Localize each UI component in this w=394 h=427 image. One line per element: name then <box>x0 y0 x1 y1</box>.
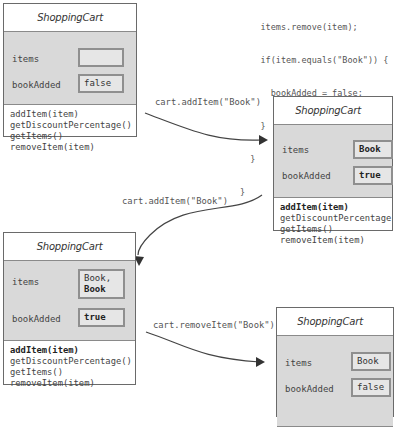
attribute-value: false <box>351 378 391 397</box>
transition-label: cart.addItem("Book") <box>122 196 228 206</box>
methods-section: addItem(item) getDiscountPercentage() ge… <box>4 105 136 157</box>
shopping-cart-state-1: ShoppingCart items bookAdded false addIt… <box>3 3 137 137</box>
attribute-name: bookAdded <box>285 384 334 394</box>
class-title: ShoppingCart <box>277 308 393 336</box>
method: removeItem(item) <box>10 142 130 153</box>
attribute-value: Book <box>353 140 393 159</box>
item-value: Book, <box>84 273 119 284</box>
attribute-name: items <box>282 145 309 155</box>
method: removeItem(item) <box>10 378 129 389</box>
attributes-section: items bookAdded false <box>4 32 136 105</box>
transition-label: cart.addItem("Book") <box>155 97 261 107</box>
class-title: ShoppingCart <box>4 4 136 32</box>
attribute-name: items <box>12 277 39 287</box>
shopping-cart-state-2: ShoppingCart items Book bookAdded true a… <box>273 96 393 231</box>
methods-section: addItem(item) getDiscountPercentage() ge… <box>4 341 135 393</box>
attribute-name: items <box>12 54 39 64</box>
attribute-value: true <box>78 308 125 327</box>
attributes-section: items Book bookAdded true <box>274 125 392 198</box>
attribute-value: Book <box>351 352 391 371</box>
method: getDiscountPercentage() <box>10 120 130 131</box>
attribute-name: bookAdded <box>12 80 61 90</box>
method: addItem(item) <box>10 345 129 356</box>
method: removeItem(item) <box>280 235 386 246</box>
shopping-cart-state-4: ShoppingCart items Book bookAdded false <box>276 307 394 417</box>
attribute-value: Book, Book <box>78 269 125 299</box>
attribute-value <box>78 48 124 67</box>
attribute-name: items <box>285 358 312 368</box>
item-value: Book <box>84 284 119 295</box>
class-title: ShoppingCart <box>4 233 135 261</box>
arrow-1 <box>145 113 262 140</box>
method: getDiscountPercentage( <box>280 213 386 224</box>
attribute-value: false <box>78 74 124 93</box>
methods-section: addItem(item) getDiscountPercentage( get… <box>274 198 392 250</box>
attributes-section: items Book bookAdded false <box>277 336 393 427</box>
attribute-value: true <box>353 166 393 185</box>
method: addItem(item) <box>10 109 130 120</box>
attribute-name: bookAdded <box>282 171 331 181</box>
arrow-3 <box>146 332 260 362</box>
method: getItems() <box>10 367 129 378</box>
attributes-section: items Book, Book bookAdded true <box>4 261 135 341</box>
arrowhead-icon <box>259 135 268 145</box>
method: getDiscountPercentage() <box>10 356 129 367</box>
attribute-name: bookAdded <box>12 314 61 324</box>
method: getItems() <box>280 224 386 235</box>
transition-label: cart.removeItem("Book"); <box>153 320 280 330</box>
shopping-cart-state-3: ShoppingCart items Book, Book bookAdded … <box>3 232 136 385</box>
class-title: ShoppingCart <box>274 97 392 125</box>
arrowhead-icon <box>256 357 265 367</box>
method: getItems() <box>10 131 130 142</box>
method: addItem(item) <box>280 202 386 213</box>
